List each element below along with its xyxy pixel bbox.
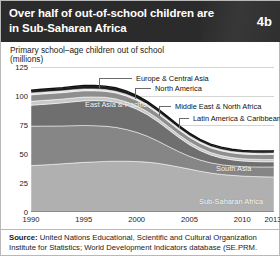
y-tick-50: 50 [1,150,28,159]
x-tick-2005: 2005 [181,215,198,224]
area-chart-svg [31,67,274,212]
y-tick-75: 75 [1,121,28,130]
series-label-south-asia: South Asia [216,164,251,173]
callout-label-middle-east-north-africa: Middle East & North Africa [175,102,261,111]
source-divider [1,229,280,230]
source-text: United Nations Educational, Scientific a… [9,233,257,252]
callout-leader-h-latin-america-caribbean [179,118,189,119]
callout-label-latin-america-caribbean: Latin America & Caribbean [193,114,280,123]
y-tick-100: 100 [1,92,28,101]
chart-units-label: (millions) [10,55,43,65]
callout-leader-v-latin-america-caribbean [179,118,180,128]
x-tick-2010: 2010 [234,215,251,224]
callout-leader-h-north-america [135,88,151,89]
callout-leader-v-north-america [135,88,136,99]
x-axis-tick-labels: 199019952000200520102013 [31,215,274,227]
source-label: Source: [9,233,38,242]
x-tick-2013: 2013 [265,215,280,224]
x-axis-line [31,211,274,212]
callout-leader-v-middle-east-north-africa [159,106,160,116]
x-tick-2000: 2000 [128,215,145,224]
figure-header: Over half of out-of-school children are … [1,1,280,42]
callout-leader-v-europe-central-asia [99,78,100,89]
series-label-sub-saharan-africa: Sub-Saharan Africa [199,197,263,206]
callout-leader-h-europe-central-asia [99,78,132,79]
stacked-area-series [31,67,274,212]
figure-title: Over half of out-of-school children are … [9,6,217,36]
plot-area: East Asia & PacificSouth AsiaSub-Saharan… [31,67,274,212]
x-tick-1995: 1995 [75,215,92,224]
source-note: Source: United Nations Educational, Scie… [9,233,277,253]
x-tick-1990: 1990 [23,215,40,224]
series-label-east-asia-pacific: East Asia & Pacific [85,100,147,109]
y-tick-25: 25 [1,179,28,188]
figure-panel: Over half of out-of-school children are … [0,0,280,256]
figure-number-badge: 4b [257,14,272,29]
callout-label-europe-central-asia: Europe & Central Asia [136,74,209,83]
callout-label-north-america: North America [155,84,202,93]
callout-leader-h-middle-east-north-africa [159,106,171,107]
